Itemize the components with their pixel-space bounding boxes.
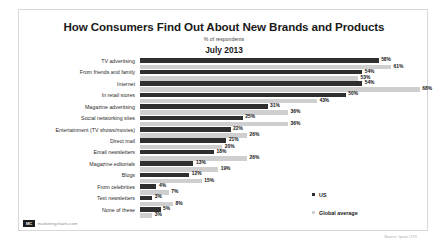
source-note: Source: Ipsos OTX [384, 234, 417, 239]
bar-row: None of these5%3% [19, 206, 429, 223]
logo-text: marketingcharts.com [38, 221, 78, 226]
bar-us [140, 207, 161, 212]
bar-us [140, 104, 268, 109]
legend-item-global: Global average [319, 210, 358, 216]
bar-value-label: 25% [245, 114, 255, 119]
bar-value-label: 13% [196, 160, 206, 165]
bar-value-label: 3% [155, 194, 162, 199]
bar-value-label: 12% [192, 171, 202, 176]
category-label: None of these [19, 207, 135, 213]
logo-badge: MC [23, 220, 35, 227]
bar-chart-plot: TV advertising58%61%From friends and fam… [19, 57, 429, 217]
category-label: Magazine advertising [19, 104, 135, 110]
bar-value-label: 4% [159, 183, 166, 188]
category-label: Blogs [19, 172, 135, 178]
bar-us [140, 93, 346, 98]
marketingcharts-logo: MC marketingcharts.com [23, 220, 77, 227]
chart-subtitle: % of respondents [19, 36, 429, 42]
category-label: In retail stores [19, 92, 135, 98]
bar-us [140, 184, 156, 189]
category-label: Magazine editorials [19, 161, 135, 167]
category-label: From celebrities [19, 184, 135, 190]
bar-value-label: 22% [233, 126, 243, 131]
bar-us [140, 196, 152, 201]
category-label: Text newsletters [19, 195, 135, 201]
bar-value-label: 58% [381, 57, 391, 62]
category-label: Internet [19, 81, 135, 87]
bar-value-label: 21% [229, 137, 239, 142]
bar-us [140, 116, 243, 121]
bar-global [140, 213, 152, 218]
category-label: From friends and family [19, 69, 135, 75]
category-label: Direct mail [19, 138, 135, 144]
legend-label-global: Global average [319, 210, 358, 216]
legend-item-us: US [319, 192, 327, 198]
bar-value-label: 54% [365, 80, 375, 85]
bar-value-label: 5% [163, 206, 170, 211]
bar-value-label: 54% [365, 69, 375, 74]
category-label: TV advertising [19, 58, 135, 64]
bar-us [140, 173, 189, 178]
bar-us [140, 150, 214, 155]
chart-period: July 2013 [19, 45, 429, 55]
legend-swatch-global [312, 211, 315, 214]
bar-us [140, 138, 226, 143]
legend-swatch-us [312, 193, 315, 196]
category-label: Email newsletters [19, 149, 135, 155]
category-label: Social networking sites [19, 115, 135, 121]
legend-label-us: US [319, 192, 327, 198]
bar-us [140, 81, 362, 86]
bar-us [140, 127, 231, 132]
bar-pair: 5%3% [140, 206, 428, 223]
category-label: Entertainment (TV shows/movies) [19, 127, 135, 133]
bar-value-label: 31% [270, 103, 280, 108]
bar-value-label: 50% [348, 91, 358, 96]
chart-card: How Consumers Find Out About New Brands … [18, 9, 428, 231]
bar-value-label: 3% [155, 212, 162, 217]
bar-value-label: 18% [217, 149, 227, 154]
chart-title: How Consumers Find Out About New Brands … [19, 20, 429, 33]
bar-us [140, 161, 193, 166]
bar-us [140, 58, 379, 63]
bar-us [140, 70, 362, 75]
